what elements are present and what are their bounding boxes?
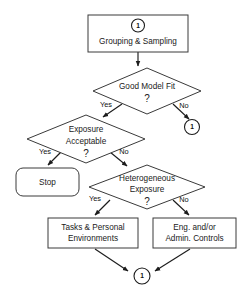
eng-admin-label-2: Admin. Controls bbox=[165, 234, 223, 243]
grouping-connector-label: 1 bbox=[136, 22, 140, 29]
exposure-acceptable-label-1: Exposure bbox=[69, 125, 104, 134]
heterogeneous-exposure-label-2: Exposure bbox=[130, 185, 165, 194]
edge-label-hetero-yes: Yes bbox=[89, 194, 101, 203]
heterogeneous-exposure-question-mark: ? bbox=[144, 196, 150, 207]
exposure-acceptable-label-2: Acceptable bbox=[66, 137, 107, 146]
stop-label: Stop bbox=[39, 178, 56, 187]
node-eng-admin-controls[interactable]: Eng. and/or Admin. Controls bbox=[153, 218, 236, 248]
edge-label-exposure-yes: Yes bbox=[39, 147, 51, 156]
edge-engadmin-to-connector-bottom bbox=[155, 249, 190, 271]
tasks-personal-label-1: Tasks & Personal bbox=[61, 223, 124, 232]
good-model-fit-question-mark: ? bbox=[144, 93, 150, 104]
node-stop[interactable]: Stop bbox=[16, 168, 79, 196]
flowchart-svg: 1 Grouping & Sampling Good Model Fit ? Y… bbox=[0, 0, 244, 296]
eng-admin-label-1: Eng. and/or bbox=[173, 223, 216, 232]
edge-tasks-to-connector-bottom bbox=[95, 249, 128, 271]
edge-label-exposure-no: No bbox=[119, 147, 128, 156]
node-connector-bottom[interactable]: 1 bbox=[134, 268, 150, 284]
good-model-fit-label: Good Model Fit bbox=[119, 82, 176, 91]
grouping-sampling-label: Grouping & Sampling bbox=[99, 37, 177, 46]
heterogeneous-exposure-label-1: Heterogeneous bbox=[119, 174, 175, 183]
flowchart-canvas: 1 Grouping & Sampling Good Model Fit ? Y… bbox=[0, 0, 244, 296]
node-tasks-personal-environments[interactable]: Tasks & Personal Environments bbox=[48, 218, 138, 248]
node-grouping-sampling[interactable]: 1 Grouping & Sampling bbox=[88, 15, 188, 52]
edge-label-hetero-no: No bbox=[179, 195, 188, 204]
connector-right-label: 1 bbox=[190, 123, 194, 130]
node-connector-right[interactable]: 1 bbox=[185, 120, 200, 135]
edge-label-modelfit-yes: Yes bbox=[100, 100, 112, 109]
connector-bottom-label: 1 bbox=[140, 272, 144, 279]
tasks-personal-label-2: Environments bbox=[68, 234, 118, 243]
edge-label-modelfit-no: No bbox=[179, 101, 188, 110]
exposure-acceptable-question-mark: ? bbox=[83, 148, 89, 159]
